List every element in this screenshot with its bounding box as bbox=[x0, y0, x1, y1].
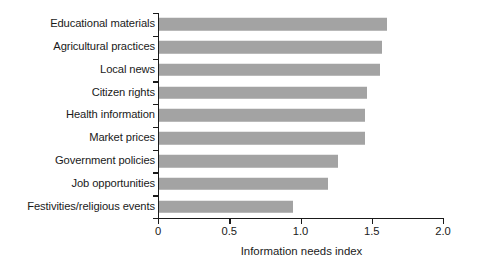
bar-row: Local news bbox=[0, 59, 477, 82]
bar-row: Agricultural practices bbox=[0, 36, 477, 59]
x-axis-tick bbox=[229, 218, 230, 224]
x-axis-tick-label: 2.0 bbox=[435, 226, 451, 237]
bar[interactable] bbox=[159, 18, 387, 31]
bar[interactable] bbox=[159, 132, 365, 145]
category-label: Health information bbox=[66, 110, 155, 121]
bar-row: Market prices bbox=[0, 127, 477, 150]
bar-row: Educational materials bbox=[0, 13, 477, 36]
bar[interactable] bbox=[159, 178, 328, 191]
x-axis-tick-label: 1.0 bbox=[293, 226, 309, 237]
bar[interactable] bbox=[159, 155, 338, 168]
bar-chart-figure: Educational materialsAgricultural practi… bbox=[0, 0, 477, 266]
x-axis-tick bbox=[443, 218, 444, 224]
category-label: Local news bbox=[100, 64, 155, 75]
bar[interactable] bbox=[159, 41, 382, 54]
category-label: Market prices bbox=[89, 133, 155, 144]
x-axis-tick-label: 0.5 bbox=[221, 226, 237, 237]
bar-row: Job opportunities bbox=[0, 172, 477, 195]
category-label: Job opportunities bbox=[71, 178, 155, 189]
x-axis-title-text: Information needs index bbox=[115, 245, 363, 257]
category-label: Citizen rights bbox=[92, 87, 155, 98]
bar[interactable] bbox=[159, 64, 380, 77]
x-axis-tick bbox=[372, 218, 373, 224]
bar[interactable] bbox=[159, 86, 367, 99]
bar-row: Government policies bbox=[0, 150, 477, 173]
x-axis-title: Information needs index bbox=[0, 246, 477, 257]
bar[interactable] bbox=[159, 109, 365, 122]
category-label: Educational materials bbox=[50, 19, 155, 30]
x-axis-tick-label: 0 bbox=[155, 226, 161, 237]
x-axis-tick bbox=[301, 218, 302, 224]
bar[interactable] bbox=[159, 200, 293, 213]
category-label: Agricultural practices bbox=[53, 42, 155, 53]
bar-row: Festivities/religious events bbox=[0, 195, 477, 218]
category-label: Government policies bbox=[55, 155, 155, 166]
bar-row: Citizen rights bbox=[0, 81, 477, 104]
x-axis-tick-label: 1.5 bbox=[364, 226, 380, 237]
category-label: Festivities/religious events bbox=[27, 201, 155, 212]
x-axis-tick bbox=[158, 218, 159, 224]
bar-row: Health information bbox=[0, 104, 477, 127]
